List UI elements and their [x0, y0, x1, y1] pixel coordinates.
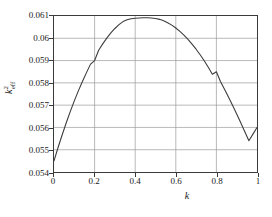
data-curve — [54, 16, 257, 172]
y-axis-tick-label: 0.06 — [33, 33, 49, 42]
y-axis-tick-label: 0.057 — [29, 101, 49, 110]
x-axis-tick-label: 0.6 — [170, 177, 181, 186]
y-axis-title-base: k — [3, 90, 14, 94]
x-axis-tick-label: 0.2 — [88, 177, 99, 186]
x-axis-tick-label: 1 — [256, 177, 261, 186]
y-axis-tick-label: 0.058 — [29, 78, 49, 87]
y-axis-tick-label: 0.061 — [29, 11, 49, 20]
y-axis-title: k2eff — [3, 82, 17, 94]
chart-figure: 0.0540.0550.0560.0570.0580.0590.060.061 … — [0, 0, 272, 217]
x-axis-title: k — [0, 191, 272, 201]
x-axis-tick-label: 0.8 — [211, 177, 222, 186]
x-axis-tick-label: 0 — [51, 177, 56, 186]
y-axis-title-subscript: eff — [9, 82, 16, 89]
y-axis-tick-label: 0.055 — [29, 146, 49, 155]
y-axis-tick-label: 0.056 — [29, 123, 49, 132]
plot-area — [53, 15, 258, 173]
y-axis-tick-label: 0.059 — [29, 56, 49, 65]
x-axis-tick-labels: 00.20.40.60.81 — [0, 177, 272, 191]
x-axis-tick-label: 0.4 — [129, 177, 140, 186]
x-axis-title-text: k — [185, 191, 189, 201]
